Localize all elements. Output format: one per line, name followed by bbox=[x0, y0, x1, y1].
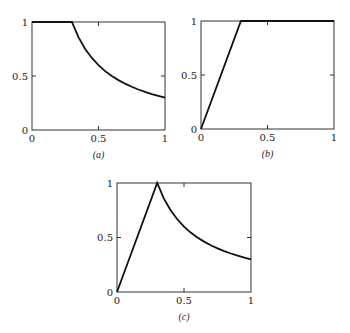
subplot-caption: (b) bbox=[262, 148, 274, 160]
y-tick-label: 0.5 bbox=[181, 70, 197, 81]
subplot-caption: (c) bbox=[178, 311, 190, 323]
x-tick-label: 0.5 bbox=[91, 133, 107, 144]
subplot-caption: (a) bbox=[93, 149, 105, 161]
plot-frame bbox=[32, 22, 165, 130]
x-tick-label: 1 bbox=[162, 133, 168, 144]
subplot-c: 00.5100.51(c) bbox=[97, 178, 254, 324]
y-tick-label: 0 bbox=[191, 124, 197, 135]
data-line-b bbox=[201, 21, 334, 129]
x-tick-label: 0.5 bbox=[260, 132, 276, 143]
x-tick-label: 0 bbox=[198, 132, 204, 143]
x-tick-label: 1 bbox=[331, 132, 337, 143]
y-tick-label: 0 bbox=[22, 125, 28, 136]
subplot-a: 00.5100.51(a) bbox=[12, 17, 168, 162]
x-tick-label: 0 bbox=[114, 295, 120, 306]
y-tick-label: 0.5 bbox=[12, 71, 28, 82]
y-tick-label: 1 bbox=[22, 17, 28, 28]
x-tick-label: 1 bbox=[248, 295, 254, 306]
y-tick-label: 0.5 bbox=[97, 232, 113, 243]
subplot-b: 00.5100.51(b) bbox=[181, 16, 337, 161]
y-tick-label: 0 bbox=[107, 287, 113, 298]
x-tick-label: 0.5 bbox=[176, 295, 192, 306]
data-line-a bbox=[32, 22, 165, 98]
figure: 00.5100.51(a) 00.5100.51(b) 00.5100.51(c… bbox=[0, 0, 350, 333]
data-line-c bbox=[117, 183, 251, 292]
x-tick-label: 0 bbox=[29, 133, 35, 144]
y-tick-label: 1 bbox=[107, 178, 113, 189]
y-tick-label: 1 bbox=[191, 16, 197, 27]
